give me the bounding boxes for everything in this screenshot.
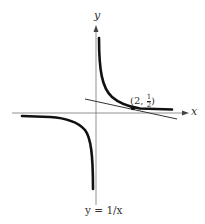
curve-caption: y = 1/x <box>85 205 123 216</box>
x-axis-label: x <box>191 106 197 117</box>
hyperbola-lower-branch <box>22 116 93 189</box>
x-axis-arrow-icon <box>182 111 189 116</box>
point-label: (2, 12) <box>130 94 155 109</box>
graph <box>0 0 205 224</box>
point-label-close: ) <box>151 95 155 106</box>
y-axis-arrow-icon <box>94 25 99 32</box>
point-label-open: (2, <box>130 95 147 106</box>
y-axis-label: y <box>94 10 100 21</box>
